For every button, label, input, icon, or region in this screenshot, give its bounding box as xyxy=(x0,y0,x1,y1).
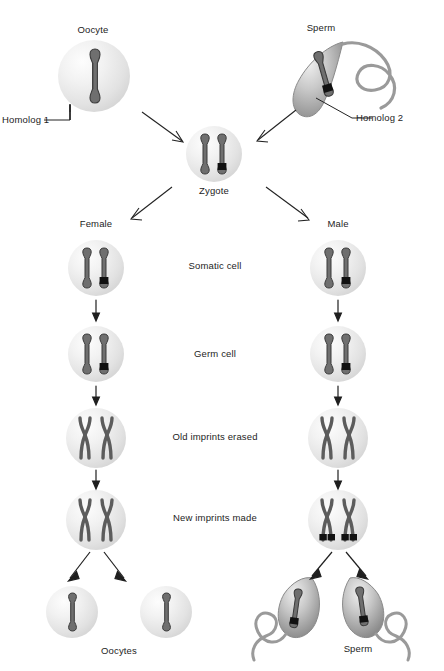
chromosome-duplicated-2 xyxy=(97,415,117,461)
oocyte-gamete-1 xyxy=(46,586,98,638)
chromosome-homolog-1 xyxy=(87,47,103,105)
homolog-1-label: Homolog 1 xyxy=(2,114,49,125)
chromosome-maternal xyxy=(322,332,336,376)
male-erased-cell xyxy=(308,408,368,468)
imprint-mark xyxy=(341,534,348,540)
sperm-gametes-label: Sperm xyxy=(344,643,373,654)
chromosome-duplicated-1 xyxy=(317,415,337,461)
imprint-mark xyxy=(350,534,357,540)
sperm-gamete-2 xyxy=(330,570,440,670)
oocyte-gamete-2 xyxy=(140,586,192,638)
stage-label-somatic: Somatic cell xyxy=(188,260,241,271)
chromosome-paternal xyxy=(339,246,353,290)
imprint-mark xyxy=(342,363,351,370)
female-erased-cell xyxy=(66,408,126,468)
chromosome-maternal xyxy=(322,246,336,290)
homolog-2-label: Homolog 2 xyxy=(356,112,403,123)
female-somatic-cell xyxy=(68,240,124,296)
zygote-chromosome-maternal xyxy=(198,132,212,176)
imprint-mark xyxy=(289,617,298,625)
oocytes-label: Oocytes xyxy=(101,645,137,656)
chromosome-maternal xyxy=(80,332,94,376)
imprinting-diagram: Oocyte Sperm Homolog 1 Homolog 2 xyxy=(0,0,444,671)
chromosome-paternal xyxy=(97,332,111,376)
stage-label-germ: Germ cell xyxy=(194,348,236,359)
zygote-label: Zygote xyxy=(199,185,229,196)
zygote-chromosome-paternal xyxy=(215,132,229,176)
female-germ-cell xyxy=(68,326,124,382)
female-new-imprints-cell xyxy=(66,490,126,550)
chromosome-duplicated-2 xyxy=(339,415,359,461)
stage-label-new: New imprints made xyxy=(173,512,257,523)
imprint-mark xyxy=(359,615,368,623)
chromosome-paternal xyxy=(97,246,111,290)
imprint-mark xyxy=(342,277,351,284)
imprint-mark xyxy=(328,534,335,540)
chromosome-duplicated-1 xyxy=(75,415,95,461)
chromosome-duplicated-imprinted-2 xyxy=(339,497,359,543)
imprint-mark xyxy=(218,163,227,170)
chromosome-duplicated-2 xyxy=(97,497,117,543)
male-lineage-label: Male xyxy=(327,218,348,229)
male-somatic-cell xyxy=(310,240,366,296)
chromosome-unimprinted xyxy=(66,591,79,633)
imprint-mark xyxy=(100,363,109,370)
chromosome-maternal xyxy=(80,246,94,290)
stage-label-erased: Old imprints erased xyxy=(172,431,257,442)
imprint-mark xyxy=(319,534,326,540)
chromosome-duplicated-1 xyxy=(75,497,95,543)
oocyte-cell xyxy=(58,40,130,112)
oocyte-label: Oocyte xyxy=(78,24,109,35)
male-germ-cell xyxy=(310,326,366,382)
female-lineage-label: Female xyxy=(80,218,113,229)
chromosome-paternal xyxy=(339,332,353,376)
chromosome-duplicated-imprinted-1 xyxy=(317,497,337,543)
zygote-cell xyxy=(186,126,242,182)
male-new-imprints-cell xyxy=(308,490,368,550)
imprint-mark xyxy=(100,277,109,284)
chromosome-unimprinted xyxy=(160,591,173,633)
